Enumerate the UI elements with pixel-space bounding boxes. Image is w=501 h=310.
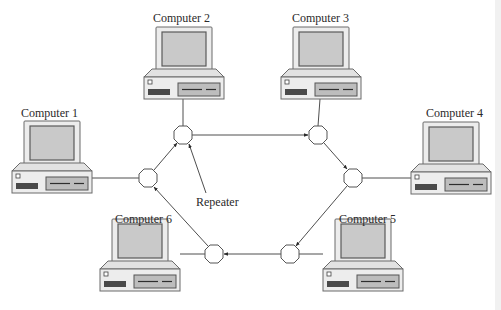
computer-icon [323, 219, 403, 291]
ring-arrow-r1-r2 [154, 143, 177, 170]
repeaters [139, 126, 362, 263]
computer-6: Computer 6 [100, 212, 180, 291]
computer-icon [100, 219, 180, 291]
link-computer-3 [318, 99, 320, 126]
computer-5: Computer 5 [323, 212, 403, 291]
repeater-callout-arrow [189, 144, 206, 193]
ring-arrow-r3-r4 [324, 143, 347, 169]
computer-1-label: Computer 1 [21, 106, 78, 120]
repeater-octagon-r4 [344, 169, 362, 187]
repeater-octagon-r2 [174, 126, 192, 144]
repeater-label: Repeater [196, 195, 239, 209]
computer-2-label: Computer 2 [153, 11, 210, 25]
computer-4-label: Computer 4 [426, 106, 483, 120]
computer-icon [411, 122, 491, 194]
computer-2: Computer 2 [144, 11, 224, 99]
computer-icon [281, 27, 361, 99]
ring-network-diagram: Repeater Computer 1 Computer 2 Computer … [0, 0, 501, 310]
computer-1: Computer 1 [12, 106, 92, 193]
repeater-octagon-r3 [309, 126, 327, 144]
computer-icon [144, 27, 224, 99]
computer-3-label: Computer 3 [292, 11, 349, 25]
repeater-octagon-r5 [281, 245, 299, 263]
ring-links [154, 135, 347, 254]
computer-5-label: Computer 5 [339, 212, 396, 226]
computer-icon [12, 121, 92, 193]
computer-4: Computer 4 [411, 106, 491, 194]
computer-3: Computer 3 [281, 11, 361, 99]
repeater-octagon-r1 [139, 169, 157, 187]
repeater-octagon-r6 [205, 245, 223, 263]
computer-6-label: Computer 6 [115, 212, 172, 226]
